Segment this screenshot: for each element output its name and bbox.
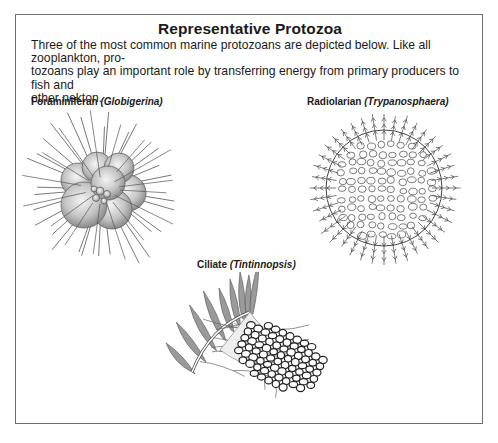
genus-name: (Tintinnopsis) bbox=[230, 259, 296, 270]
radiolarian-label: Radiolarian (Trypanosphaera) bbox=[307, 96, 449, 107]
common-name: Radiolarian bbox=[307, 96, 361, 107]
radiolarian-illustration bbox=[300, 108, 470, 273]
foraminiferan-illustration bbox=[20, 105, 190, 275]
ciliate-label: Ciliate (Tintinnopsis) bbox=[197, 259, 296, 270]
intro-line: tozoans play an important role by transf… bbox=[31, 65, 481, 91]
intro-line: Three of the most common marine protozoa… bbox=[31, 39, 481, 65]
figure-title: Representative Protozoa bbox=[15, 20, 485, 38]
genus-name: (Trypanosphaera) bbox=[364, 96, 448, 107]
common-name: Ciliate bbox=[197, 259, 227, 270]
ciliate-illustration bbox=[140, 272, 340, 417]
